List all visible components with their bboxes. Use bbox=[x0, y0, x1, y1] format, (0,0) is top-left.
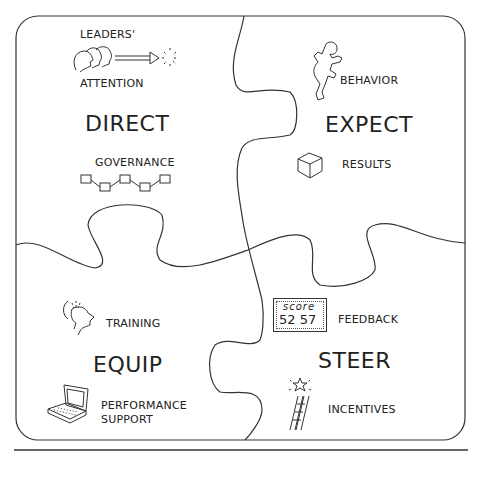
direct-title: DIRECT bbox=[85, 111, 169, 136]
scoreboard-title: score bbox=[283, 301, 315, 312]
results-label: RESULTS bbox=[342, 158, 391, 171]
scoreboard-icon: score 52 57 bbox=[273, 298, 327, 332]
expect-title: EXPECT bbox=[325, 112, 413, 137]
steer-title: STEER bbox=[318, 348, 391, 373]
running-person-icon bbox=[310, 40, 346, 102]
governance-chain-icon bbox=[80, 173, 180, 195]
governance-label: GOVERNANCE bbox=[95, 156, 175, 169]
leaders-label: LEADERS' bbox=[80, 28, 135, 41]
laptop-icon bbox=[46, 383, 92, 425]
equip-title: EQUIP bbox=[93, 352, 163, 377]
performance-label: PERFORMANCE bbox=[101, 399, 187, 412]
attention-label: ATTENTION bbox=[80, 77, 144, 90]
behavior-label: BEHAVIOR bbox=[340, 74, 398, 87]
cube-icon bbox=[296, 151, 324, 179]
scoreboard-values: 52 57 bbox=[279, 312, 316, 327]
support-label: SUPPORT bbox=[101, 413, 153, 426]
feedback-label: FEEDBACK bbox=[338, 313, 398, 326]
training-label: TRAINING bbox=[106, 317, 161, 330]
head-learning-icon bbox=[62, 299, 98, 337]
ladder-star-icon bbox=[286, 374, 320, 432]
incentives-label: INCENTIVES bbox=[328, 403, 396, 416]
leaders-heads-arrow-icon bbox=[72, 44, 187, 74]
